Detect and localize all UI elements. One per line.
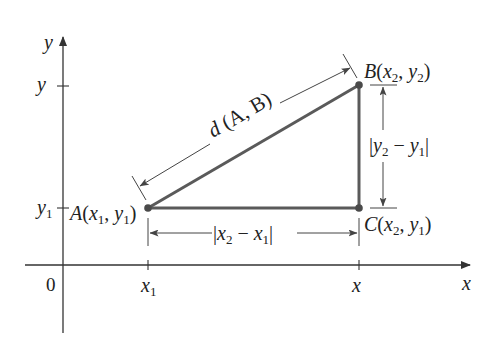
x-tick-label-x: x — [351, 274, 361, 296]
y-tick-label-y: y — [35, 73, 46, 96]
point-C — [355, 204, 363, 212]
point-B — [355, 81, 363, 89]
x-axis-label: x — [461, 272, 471, 294]
horizontal-label: |x2 − x1| — [213, 222, 273, 247]
point-A — [144, 204, 152, 212]
x-tick-label-x1: x1 — [140, 274, 156, 299]
y-tick-label-y1: y1 — [35, 196, 52, 221]
hyp-end-tick-B — [343, 54, 357, 78]
point-C-label: C(x2, y1) — [364, 213, 431, 238]
origin-label: 0 — [46, 274, 56, 295]
vertical-dimension: |y2 − y1| — [369, 85, 429, 208]
hypotenuse-label: d (A, B) — [204, 87, 276, 142]
point-B-label: B(x2, y2) — [364, 60, 430, 85]
vertical-label: |y2 − y1| — [369, 134, 429, 159]
distance-diagram: y x 0 y y1 x1 x A(x1, y1) B(x2, y2) C(x2… — [0, 0, 502, 341]
point-A-label: A(x1, y1) — [68, 202, 136, 227]
horizontal-dimension: |x2 − x1| — [148, 218, 359, 247]
hypotenuse-dimension: d (A, B) — [132, 54, 357, 200]
hyp-end-tick-A — [132, 176, 146, 200]
y-axis-label: y — [42, 31, 53, 54]
